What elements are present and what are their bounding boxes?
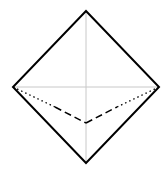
left-dotted-fold-line (13, 87, 55, 107)
left-dashed-fold-line (55, 107, 86, 123)
crease-lines (13, 11, 159, 163)
origami-diagram (0, 0, 168, 174)
right-dashed-fold-line (86, 107, 117, 123)
right-dotted-fold-line (117, 87, 159, 107)
diagram-canvas (0, 0, 168, 174)
